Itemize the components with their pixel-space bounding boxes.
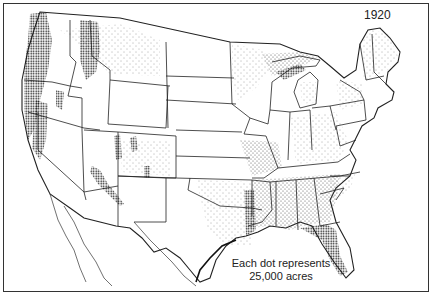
- sparse-dot-regions: [60, 24, 398, 246]
- mexico-outline: [50, 194, 196, 286]
- map-legend: Each dot represents 25,000 acres: [222, 257, 340, 283]
- legend-line-2: 25,000 acres: [222, 270, 340, 283]
- legend-line-1: Each dot represents: [222, 257, 340, 270]
- map-year-label: 1920: [364, 8, 391, 22]
- us-map: [0, 0, 435, 297]
